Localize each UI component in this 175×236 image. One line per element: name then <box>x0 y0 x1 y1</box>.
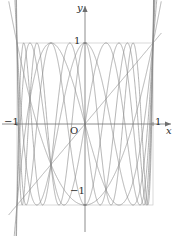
origin-label: O <box>70 126 78 136</box>
x-tick-label-pos1: 1 <box>155 117 161 127</box>
chebyshev-plot <box>0 0 175 236</box>
x-tick-label-neg1: −1 <box>4 117 19 127</box>
axes-group <box>2 6 171 232</box>
y-axis-arrowhead <box>82 6 87 12</box>
y-tick-label-neg1: −1 <box>70 186 85 196</box>
figure-canvas: y x O −1 1 1 −1 <box>0 0 175 236</box>
y-tick-label-pos1: 1 <box>74 36 80 46</box>
y-axis-label: y <box>77 3 83 13</box>
x-axis-label: x <box>166 126 172 136</box>
